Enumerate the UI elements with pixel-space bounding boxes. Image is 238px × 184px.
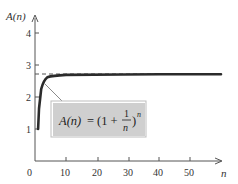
y-tick-label-4: 4: [26, 28, 31, 39]
callout-leader-line: [44, 83, 63, 102]
x-ticks: [66, 157, 190, 161]
formula-exponent: n: [137, 110, 141, 119]
formula-close: ): [132, 114, 136, 128]
formula-denominator: n: [123, 122, 128, 133]
x-tick-label-10: 10: [60, 167, 70, 178]
formula-open: (1 +: [97, 114, 118, 128]
x-tick-label-40: 40: [153, 167, 163, 178]
formula-equals: =: [87, 114, 94, 128]
y-axis-title: A(n): [5, 10, 26, 23]
x-axis-title: n: [221, 167, 227, 179]
x-tick-label-20: 20: [92, 167, 102, 178]
chart: 4 3 2 1 0 10 20 30 40 50 A(n) n A(n) = (…: [0, 0, 238, 184]
formula-numerator: 1: [124, 108, 129, 119]
y-tick-label-1: 1: [26, 124, 31, 135]
x-tick-label-0: 0: [27, 167, 32, 178]
formula-lhs: A(n): [58, 114, 81, 128]
x-tick-label-50: 50: [184, 167, 194, 178]
y-tick-label-2: 2: [26, 92, 31, 103]
y-tick-label-3: 3: [26, 60, 31, 71]
x-tick-label-30: 30: [123, 167, 133, 178]
